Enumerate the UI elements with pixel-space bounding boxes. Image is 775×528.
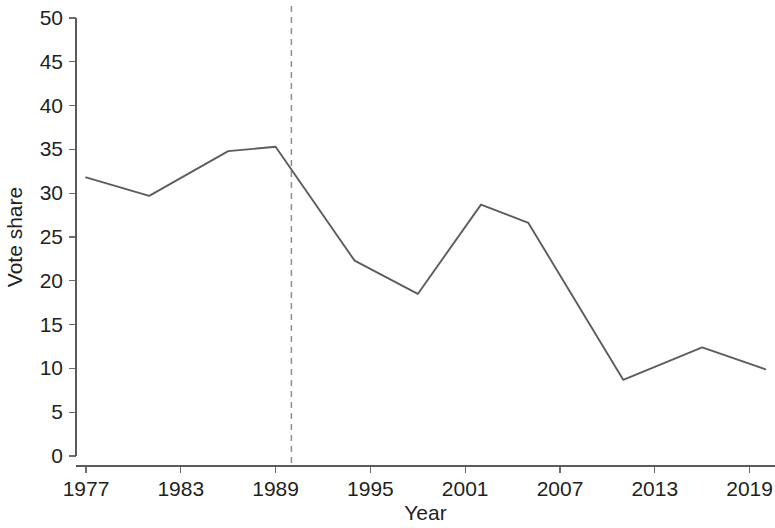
x-axis-tick-label: 2019	[726, 477, 773, 500]
x-axis-tick-label: 1995	[347, 477, 394, 500]
y-axis-tick-label: 0	[51, 444, 63, 467]
y-axis-tick-label: 20	[40, 269, 63, 292]
y-axis-tick-label: 30	[40, 181, 63, 204]
x-axis-tick-group: 19771983198919952001200720132019	[63, 466, 773, 500]
y-axis-tick-label: 10	[40, 356, 63, 379]
x-axis-tick-label: 1989	[252, 477, 299, 500]
y-axis-tick-label: 15	[40, 313, 63, 336]
line-chart: 05101520253035404550 1977198319891995200…	[0, 0, 775, 528]
y-axis-tick-label: 40	[40, 94, 63, 117]
chart-container: 05101520253035404550 1977198319891995200…	[0, 0, 775, 528]
y-axis-tick-group: 05101520253035404550	[40, 6, 76, 467]
y-axis-tick-label: 5	[51, 400, 63, 423]
x-axis-tick-label: 2007	[537, 477, 584, 500]
y-axis-tick-label: 50	[40, 6, 63, 29]
y-axis-tick-label: 45	[40, 50, 63, 73]
x-axis-title: Year	[404, 501, 446, 524]
vote-share-line-series	[86, 147, 765, 380]
y-axis-title: Vote share	[3, 187, 26, 287]
x-axis-tick-label: 2001	[442, 477, 489, 500]
x-axis-tick-label: 1977	[63, 477, 110, 500]
x-axis-tick-label: 2013	[631, 477, 678, 500]
x-axis-tick-label: 1983	[157, 477, 204, 500]
y-axis-tick-label: 25	[40, 225, 63, 248]
y-axis-tick-label: 35	[40, 137, 63, 160]
